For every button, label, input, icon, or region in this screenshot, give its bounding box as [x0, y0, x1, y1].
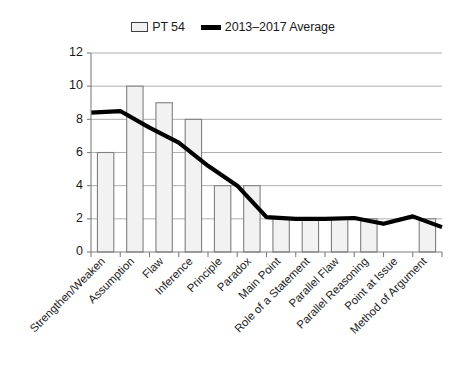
bar[interactable]	[127, 86, 143, 252]
bar[interactable]	[302, 219, 318, 252]
y-tick-label: 0	[76, 244, 83, 258]
y-axis-labels-group: 024681012	[69, 45, 91, 258]
x-tick-label: Flaw	[140, 254, 166, 280]
plot-area: 024681012 Strengthen/WeakenAssumptionFla…	[0, 0, 466, 376]
chart-svg: 024681012 Strengthen/WeakenAssumptionFla…	[0, 0, 466, 376]
y-tick-label: 4	[76, 178, 83, 192]
bar[interactable]	[185, 119, 201, 252]
bar[interactable]	[331, 219, 347, 252]
y-tick-label: 8	[76, 112, 83, 126]
bar[interactable]	[273, 219, 289, 252]
bars-group	[97, 86, 435, 252]
bar[interactable]	[97, 153, 113, 253]
gridlines-group	[91, 53, 442, 219]
y-tick-label: 12	[69, 45, 83, 59]
bar[interactable]	[214, 186, 230, 252]
average-line-group	[91, 111, 442, 227]
x-axis-labels-group: Strengthen/WeakenAssumptionFlawInference…	[28, 254, 430, 336]
average-line[interactable]	[91, 111, 442, 227]
y-tick-label: 2	[76, 211, 83, 225]
y-tick-label: 10	[69, 78, 83, 92]
y-tick-label: 6	[76, 145, 83, 159]
bar[interactable]	[156, 103, 172, 252]
chart-container: PT 54 2013–2017 Average 024681012 Streng…	[0, 0, 466, 376]
